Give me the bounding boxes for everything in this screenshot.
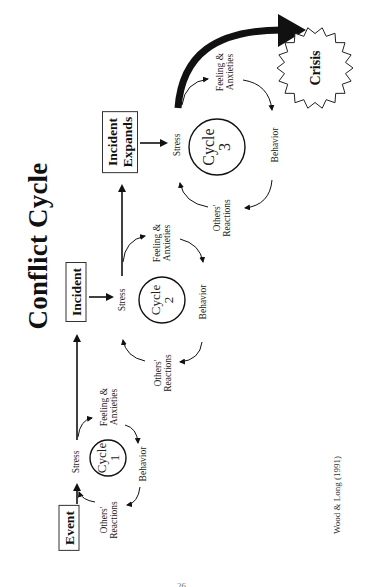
feelings-line2: Anxieties	[162, 224, 172, 262]
cycle1-number: 1	[108, 443, 121, 473]
incident-label: Incident	[69, 268, 84, 316]
cycle1-behavior: Behavior	[138, 447, 148, 482]
cycle1-others-reactions: Others' Reactions	[99, 501, 119, 538]
cycle2-center-label: Cycle 2	[149, 285, 175, 315]
cycle2-behavior: Behavior	[198, 285, 208, 320]
cycle2-feelings: Feeling & Anxieties	[152, 224, 172, 262]
diagram-graphics	[0, 0, 370, 587]
cycle3-center-label: Cycle 3	[201, 128, 233, 165]
others-line2: Reactions	[109, 501, 119, 538]
cycle3-feelings: Feeling & Anxieties	[215, 53, 235, 91]
cycle2-others-reactions: Others' Reactions	[153, 354, 173, 391]
cycle3-others-reactions: Others' Reactions	[212, 199, 232, 236]
cycle1-center-label: Cycle 1	[95, 443, 121, 473]
page-title: Conflict Cycle	[23, 162, 54, 329]
others-line1: Others'	[99, 501, 109, 538]
event-box: Event	[59, 505, 80, 551]
others-line2: Reactions	[222, 199, 232, 236]
feelings-line2: Anxieties	[225, 53, 235, 91]
feelings-line1: Feeling &	[99, 388, 109, 426]
feelings-line2: Anxieties	[109, 388, 119, 426]
feelings-line1: Feeling &	[215, 53, 225, 91]
crisis-label: Crisis	[308, 51, 324, 86]
incident-expands-line1: Incident	[105, 117, 120, 167]
citation: Wood & Long (1991)	[332, 456, 342, 534]
cycle3-behavior: Behavior	[270, 128, 280, 163]
cycle2-number: 2	[162, 285, 175, 315]
incident-expands-box: Incident Expands	[102, 111, 138, 173]
cycle2-stress: Stress	[117, 289, 127, 312]
cycle3-stress: Stress	[172, 134, 182, 157]
cycle1-stress: Stress	[71, 451, 81, 474]
others-line1: Others'	[212, 199, 222, 236]
page-number: 26	[177, 580, 186, 587]
cycle3-number: 3	[217, 128, 233, 165]
incident-box: Incident	[66, 262, 87, 322]
others-line1: Others'	[153, 354, 163, 391]
others-line2: Reactions	[163, 354, 173, 391]
cycle3-name: Cycle	[201, 128, 217, 165]
feelings-line1: Feeling &	[152, 224, 162, 262]
cycle1-feelings: Feeling & Anxieties	[99, 388, 119, 426]
incident-expands-line2: Expands	[120, 117, 135, 167]
